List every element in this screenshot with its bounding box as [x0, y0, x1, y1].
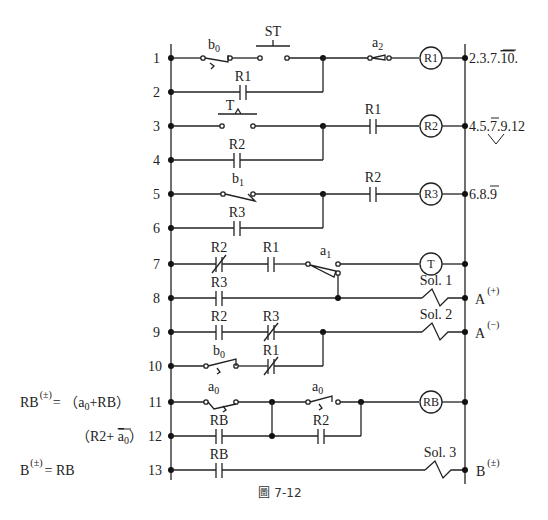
equation-rb-hold: （R2+ a0）: [76, 429, 143, 446]
row-number: 3: [153, 119, 160, 134]
row-number: 4: [153, 153, 160, 168]
note-row9: A(−): [475, 319, 499, 341]
note-row13: B(±): [476, 457, 500, 479]
rung-11: a0 a0 RB: [171, 379, 468, 413]
equation-b: B(±)= RB: [20, 457, 75, 478]
label-a2: a2: [372, 35, 383, 52]
row-number: 2: [153, 85, 160, 100]
label-sol2: Sol. 2: [420, 307, 453, 322]
equations: RB(±)= （a0+RB） （R2+ a0） B(±)= RB: [20, 389, 143, 478]
limit-switch-a2: [368, 55, 391, 60]
rung-8: R3 Sol. 1 A(+): [171, 273, 499, 307]
figure-caption: 圖 7-12: [258, 486, 301, 500]
label-a1: a1: [320, 243, 331, 260]
equation-rb: RB(±)= （a0+RB）: [20, 389, 130, 412]
coil-r1-label: R1: [424, 51, 438, 65]
label-b1: b1: [232, 171, 244, 188]
label-r2-contact: R2: [229, 137, 245, 152]
coil-t-label: T: [427, 257, 435, 271]
label-r2-nc-7: R2: [211, 240, 227, 255]
label-r1-contact-7: R1: [263, 240, 279, 255]
note-row1: 2.3.7.10.: [469, 51, 518, 66]
row-number: 6: [153, 221, 160, 236]
rung-3: T R1 R2 4.5.7.9.12: [171, 98, 525, 144]
row-number: 8: [153, 291, 160, 306]
ladder-diagram: 1 2 3 4 5 6 7 8 9 10 11 12 13 b0: [0, 0, 548, 520]
rung-6: R3: [171, 194, 323, 236]
row-number: 7: [153, 257, 160, 272]
label-r1-nc-10: R1: [263, 343, 279, 358]
label-r1-contact: R1: [235, 69, 251, 84]
rung-4: R2: [171, 126, 323, 168]
label-rb-contact-12: RB: [210, 413, 229, 428]
solenoid-1: [422, 289, 465, 306]
label-rb-contact-13: RB: [210, 447, 229, 462]
row-number: 10: [148, 359, 162, 374]
label-a0-no: a0: [312, 379, 323, 396]
row-number: 9: [153, 325, 160, 340]
coil-rb-label: RB: [423, 395, 439, 409]
label-timer-contact: T: [226, 98, 235, 113]
row-number: 11: [149, 395, 162, 410]
limit-switch-b0: [201, 55, 232, 69]
label-b0-10: b0: [213, 343, 225, 360]
label-b0: b0: [208, 37, 220, 54]
row-numbers: 1 2 3 4 5 6 7 8 9 10 11 12 13: [148, 51, 162, 478]
solenoid-3: [425, 461, 465, 478]
row-number: 12: [148, 429, 162, 444]
label-r2-contact-12: R2: [313, 413, 329, 428]
label-r3-nc-9: R3: [263, 309, 279, 324]
rung-1: b0 ST a2 R1 2.3.7.10.: [171, 24, 518, 69]
label-r3-contact-8: R3: [211, 275, 227, 290]
limit-switch-a1: [306, 262, 340, 298]
coil-r3-label: R3: [424, 187, 438, 201]
label-sol3: Sol. 3: [424, 445, 457, 460]
label-r3-contact: R3: [229, 205, 245, 220]
label-r1-contact-3: R1: [365, 102, 381, 117]
label-st: ST: [265, 24, 282, 39]
pushbutton-st: [256, 40, 290, 60]
label-r2-contact-5: R2: [365, 170, 381, 185]
label-a0-nc: a0: [208, 379, 219, 396]
row-number: 1: [153, 51, 160, 66]
rung-5: b1 R2 R3 6.8.9: [171, 170, 499, 205]
rung-10: b0 R1: [171, 332, 323, 375]
rung-2: R1: [171, 58, 323, 100]
coil-r2-label: R2: [424, 119, 438, 133]
note-row3: 4.5.7.9.12: [469, 119, 525, 134]
solenoid-2: [422, 323, 465, 340]
label-r2-contact-9: R2: [211, 309, 227, 324]
label-sol1: Sol. 1: [420, 273, 453, 288]
rung-9: R2 R3 Sol. 2 A(−): [171, 307, 499, 341]
rung-13: RB Sol. 3 B(±): [171, 445, 500, 479]
note-row8: A(+): [475, 285, 499, 307]
rung-12: RB R2: [171, 402, 361, 444]
row-number: 5: [153, 187, 160, 202]
note-row5: 6.8.9: [469, 187, 497, 202]
row-number: 13: [148, 463, 162, 478]
